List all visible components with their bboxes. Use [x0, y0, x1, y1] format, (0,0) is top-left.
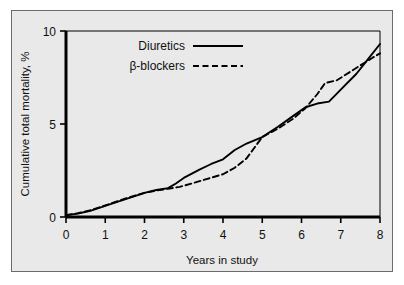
x-tick-label: 5 — [259, 228, 266, 242]
y-axis-ticks: 0510 — [43, 25, 66, 225]
x-tick-label: 4 — [220, 228, 227, 242]
legend-label-1: Diuretics — [138, 39, 185, 53]
plot-frame — [66, 31, 380, 217]
y-axis-title: Cumulative total mortality, % — [19, 52, 31, 197]
y-tick-label: 10 — [43, 25, 57, 39]
x-tick-label: 2 — [141, 228, 148, 242]
legend-label-2: β-blockers — [129, 59, 185, 73]
x-tick-label: 7 — [337, 228, 344, 242]
data-series-group — [66, 44, 380, 215]
x-tick-label: 3 — [180, 228, 187, 242]
series-line-2 — [66, 53, 380, 215]
x-tick-label: 1 — [102, 228, 109, 242]
figure-container: 0510 012345678 Diureticsβ-blockers Years… — [0, 0, 404, 285]
x-tick-label: 0 — [63, 228, 70, 242]
x-axis-title: Years in study — [186, 254, 258, 266]
y-tick-label: 5 — [49, 118, 56, 132]
x-tick-label: 6 — [298, 228, 305, 242]
x-axis-ticks: 012345678 — [63, 217, 384, 242]
series-line-1 — [66, 44, 380, 215]
y-tick-label: 0 — [49, 211, 56, 225]
chart-plot: 0510 012345678 Diureticsβ-blockers Years… — [0, 0, 404, 285]
chart-legend: Diureticsβ-blockers — [129, 39, 243, 73]
x-tick-label: 8 — [377, 228, 384, 242]
